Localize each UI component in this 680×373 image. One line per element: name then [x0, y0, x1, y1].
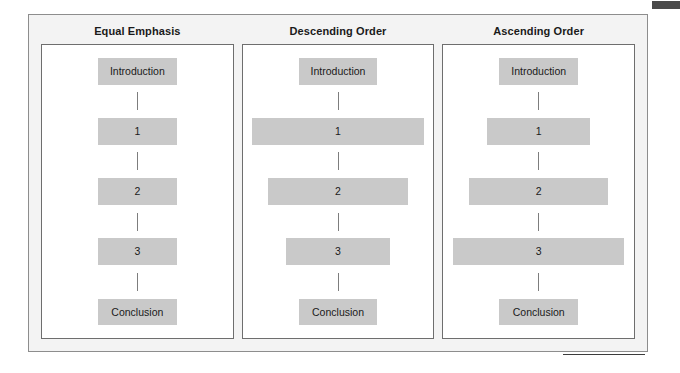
column-title-equal-emphasis: Equal Emphasis	[41, 25, 234, 37]
flow-node[interactable]: 2	[268, 178, 407, 205]
flow-node[interactable]: 1	[98, 118, 177, 145]
flow-node[interactable]: 3	[286, 238, 390, 265]
connector-line	[137, 213, 138, 231]
flow-node[interactable]: 2	[469, 178, 608, 205]
column-ascending-order: Ascending OrderIntroduction123Conclusion	[442, 25, 635, 339]
columns-container: Equal EmphasisIntroduction123ConclusionD…	[29, 15, 647, 351]
connector-line	[338, 213, 339, 231]
flow-node[interactable]: Introduction	[98, 58, 177, 85]
connector-line	[338, 273, 339, 291]
flow-node-row: 2	[449, 178, 628, 205]
flow-node[interactable]: 1	[487, 118, 591, 145]
flow-panel-ascending-order: Introduction123Conclusion	[442, 44, 635, 339]
flow-node-row: Introduction	[249, 58, 428, 85]
figure-frame: Equal EmphasisIntroduction123ConclusionD…	[28, 14, 648, 352]
connector-line	[137, 273, 138, 291]
connector-line	[538, 152, 539, 170]
column-title-ascending-order: Ascending Order	[442, 25, 635, 37]
flow-node[interactable]: 2	[98, 178, 177, 205]
flow-node-row: 2	[249, 178, 428, 205]
flow-node-row: Introduction	[449, 58, 628, 85]
flow-node[interactable]: Introduction	[499, 58, 578, 85]
connector-line	[538, 92, 539, 110]
flow-node[interactable]: 1	[252, 118, 424, 145]
flow-panel-equal-emphasis: Introduction123Conclusion	[41, 44, 234, 339]
bottom-rule	[563, 354, 645, 355]
flow-node-row: 1	[48, 118, 227, 145]
flow-node-row: 3	[48, 238, 227, 265]
flow-node[interactable]: Conclusion	[499, 299, 578, 326]
flow-node-row: Introduction	[48, 58, 227, 85]
column-descending-order: Descending OrderIntroduction123Conclusio…	[242, 25, 435, 339]
connector-line	[538, 273, 539, 291]
connector-line	[338, 152, 339, 170]
flow-node[interactable]: Conclusion	[299, 299, 378, 326]
column-equal-emphasis: Equal EmphasisIntroduction123Conclusion	[41, 25, 234, 339]
flow-node[interactable]: Conclusion	[98, 299, 177, 326]
flow-node-row: Conclusion	[449, 299, 628, 326]
connector-line	[137, 152, 138, 170]
corner-marker-bar	[652, 1, 680, 9]
flow-node-row: 3	[249, 238, 428, 265]
connector-line	[338, 92, 339, 110]
flow-node[interactable]: 3	[98, 238, 177, 265]
flow-panel-descending-order: Introduction123Conclusion	[242, 44, 435, 339]
flow-node-row: 1	[449, 118, 628, 145]
column-title-descending-order: Descending Order	[242, 25, 435, 37]
flow-node-row: 3	[449, 238, 628, 265]
connector-line	[137, 92, 138, 110]
flow-node[interactable]: 3	[453, 238, 625, 265]
flow-node[interactable]: Introduction	[299, 58, 378, 85]
flow-node-row: 2	[48, 178, 227, 205]
flow-node-row: Conclusion	[48, 299, 227, 326]
flow-node-row: 1	[249, 118, 428, 145]
connector-line	[538, 213, 539, 231]
flow-node-row: Conclusion	[249, 299, 428, 326]
